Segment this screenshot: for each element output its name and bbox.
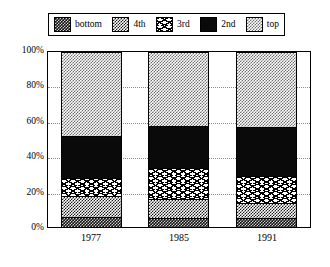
y-tick-label: 0% [0,223,44,233]
y-tick-label: 100% [0,46,44,56]
y-tick-label: 40% [0,152,44,162]
x-tick-label: 1985 [149,233,210,243]
legend-label-3rd: 3rd [177,20,190,30]
legend-item-3rd: 3rd [156,17,190,32]
x-axis: 197719851991 [47,233,311,243]
bar-segment-4th[interactable] [149,199,208,218]
stacked-bar-1977[interactable] [61,52,122,227]
bar-segment-3rd[interactable] [149,168,208,200]
legend-label-2nd: 2nd [221,20,235,30]
bar-segment-2nd[interactable] [237,127,296,176]
bar-segment-top[interactable] [237,52,296,127]
legend-item-bottom: bottom [54,17,102,32]
legend-swatch-3rd-icon [156,17,173,32]
bar-segment-top[interactable] [62,52,121,136]
legend-swatch-bottom-icon [54,17,71,32]
bar-segment-3rd[interactable] [237,176,296,202]
legend-item-2nd: 2nd [200,17,235,32]
bar-segment-4th[interactable] [62,196,121,217]
legend-swatch-4th-icon [112,17,129,32]
y-axis: 0%20%40%60%80%100% [0,0,44,267]
bar-segment-4th[interactable] [237,203,296,219]
bars-container [48,52,310,227]
y-tick-label: 60% [0,117,44,127]
chart-legend: bottom 4th 3rd 2nd top [48,13,285,36]
legend-item-top: top [246,17,279,32]
x-tick-label: 1991 [237,233,298,243]
stacked-bar-1985[interactable] [148,52,209,227]
legend-swatch-top-icon [246,17,263,32]
legend-label-bottom: bottom [75,20,102,30]
bar-segment-3rd[interactable] [62,178,121,196]
plot-area [47,51,311,228]
legend-label-4th: 4th [133,20,145,30]
bar-segment-bottom[interactable] [149,218,208,227]
bar-segment-2nd[interactable] [149,126,208,168]
bar-segment-2nd[interactable] [62,136,121,178]
x-tick-label: 1977 [61,233,122,243]
bar-segment-bottom[interactable] [62,217,121,228]
legend-item-4th: 4th [112,17,145,32]
stacked-bar-1991[interactable] [236,52,297,227]
y-tick-label: 20% [0,188,44,198]
bar-segment-top[interactable] [149,52,208,126]
y-tick-label: 80% [0,82,44,92]
bar-segment-bottom[interactable] [237,218,296,227]
legend-label-top: top [267,20,279,30]
legend-swatch-2nd-icon [200,17,217,32]
